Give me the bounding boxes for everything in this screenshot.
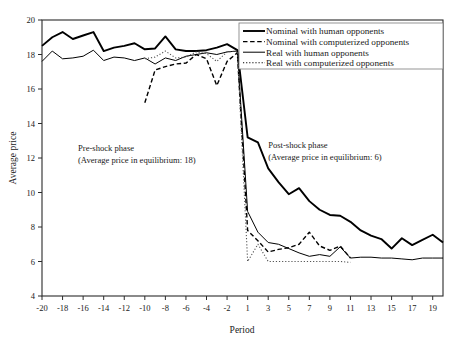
y-tick-label: 8 [31, 222, 35, 232]
x-tick-label: -10 [139, 303, 150, 313]
x-tick-label: 19 [428, 303, 437, 313]
x-tick-label: 5 [287, 303, 291, 313]
y-axis-ticks: 468101214161820 [27, 15, 43, 301]
y-tick-label: 16 [27, 84, 36, 94]
legend-label: Nominal with computerized opponents [266, 37, 410, 47]
x-axis-ticks: -20-18-16-14-12-10-8-6-4-213579111315171… [36, 296, 437, 313]
x-tick-label: 1 [246, 303, 250, 313]
x-tick-label: -2 [224, 303, 231, 313]
x-axis-title: Period [230, 325, 255, 335]
y-tick-label: 6 [31, 257, 35, 267]
x-tick-label: -4 [203, 303, 211, 313]
x-tick-label: 9 [328, 303, 332, 313]
x-tick-label: -6 [182, 303, 189, 313]
x-tick-label: 3 [266, 303, 270, 313]
chart-container: 468101214161820 -20-18-16-14-12-10-8-6-4… [0, 0, 455, 341]
x-tick-label: -14 [98, 303, 110, 313]
post-shock-annotation-line1: Post-shock phase [268, 140, 328, 150]
x-tick-label: 17 [408, 303, 417, 313]
line-chart: 468101214161820 -20-18-16-14-12-10-8-6-4… [0, 0, 455, 341]
x-tick-label: -20 [36, 303, 47, 313]
annotations-group: Pre-shock phase(Average price in equilib… [78, 140, 382, 165]
y-tick-label: 20 [27, 15, 36, 25]
y-tick-label: 10 [27, 188, 36, 198]
x-tick-label: -8 [162, 303, 169, 313]
x-tick-label: -16 [77, 303, 88, 313]
y-tick-label: 12 [27, 153, 36, 163]
x-tick-label: 7 [307, 303, 311, 313]
post-shock-annotation-line2: (Average price in equilibrium: 6) [268, 152, 382, 162]
y-tick-label: 18 [27, 50, 36, 60]
x-tick-label: 15 [387, 303, 396, 313]
legend-label: Real with computerized opponents [266, 58, 394, 68]
x-tick-label: 13 [367, 303, 376, 313]
x-tick-label: -12 [119, 303, 130, 313]
y-tick-label: 14 [27, 119, 36, 129]
pre-shock-annotation-line1: Pre-shock phase [78, 143, 134, 153]
legend-label: Real with human opponents [266, 48, 369, 58]
y-tick-label: 4 [31, 291, 36, 301]
x-tick-label: 11 [346, 303, 354, 313]
pre-shock-annotation-line2: (Average price in equilibrium: 18) [78, 155, 196, 165]
y-axis-title: Average price [8, 132, 18, 185]
legend-label: Nominal with human opponents [266, 26, 385, 36]
x-tick-label: -18 [57, 303, 68, 313]
chart-legend: Nominal with human opponentsNominal with… [239, 23, 443, 69]
